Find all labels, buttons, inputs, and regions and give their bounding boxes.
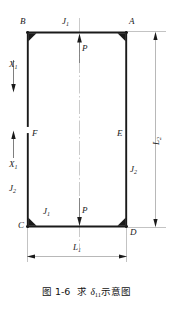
stiffness-label-j1-top: J1 <box>62 17 69 26</box>
caption-pre: 求 <box>77 286 90 297</box>
figure-number: 图 1-6 <box>42 286 71 297</box>
dimension-label-l2: L2 <box>152 137 161 145</box>
stiffness-label-j2-left: J2 <box>9 184 16 193</box>
node-label-D: D <box>130 228 137 237</box>
figure-caption: 图 1-6求 δ11示意图 <box>0 284 173 298</box>
node-label-B: B <box>20 17 26 26</box>
stiffness-label-j1-bottom: J1 <box>43 207 50 216</box>
force-label-p-lower: P <box>82 206 88 215</box>
force-label-x1-upper: X1 <box>9 60 18 69</box>
caption-symbol-sub: 11 <box>95 291 101 298</box>
dimension-line-l1 <box>27 254 127 258</box>
joint-gusset-D <box>118 218 126 226</box>
joint-gusset-C <box>28 218 36 226</box>
dimension-line-l2 <box>153 32 157 227</box>
node-label-E: E <box>117 129 123 138</box>
joint-gusset-B <box>28 33 36 41</box>
force-label-p-upper: P <box>82 44 88 53</box>
stiffness-label-j2-right: J2 <box>130 165 137 174</box>
dimension-label-l1: L1 <box>73 243 81 252</box>
force-arrow-x1-lower <box>11 131 15 159</box>
joint-gusset-A <box>118 33 126 41</box>
force-label-x1-lower: X1 <box>9 160 18 169</box>
caption-post: 示意图 <box>101 286 131 297</box>
node-label-F: F <box>32 129 38 138</box>
node-label-C: C <box>18 221 24 230</box>
node-label-A: A <box>129 17 135 26</box>
